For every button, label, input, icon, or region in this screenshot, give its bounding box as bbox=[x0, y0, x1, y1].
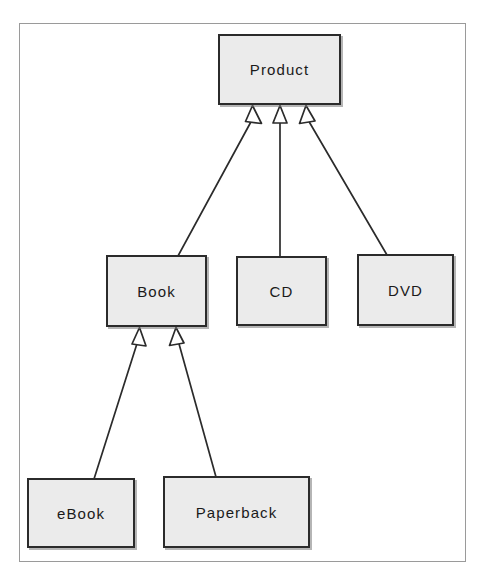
class-box-book[interactable]: Book bbox=[106, 255, 207, 327]
class-name-book: Book bbox=[137, 283, 176, 300]
class-name-cd: CD bbox=[270, 283, 294, 300]
class-name-ebook: eBook bbox=[57, 505, 105, 522]
class-name-product: Product bbox=[250, 61, 309, 78]
uml-class-diagram: Product Book CD DVD eBook Paperback bbox=[0, 0, 487, 584]
class-box-ebook[interactable]: eBook bbox=[27, 478, 135, 548]
class-name-dvd: DVD bbox=[388, 282, 423, 299]
class-name-paperback: Paperback bbox=[196, 504, 278, 521]
class-box-product[interactable]: Product bbox=[218, 34, 341, 105]
class-box-dvd[interactable]: DVD bbox=[357, 254, 454, 326]
class-box-cd[interactable]: CD bbox=[236, 256, 327, 326]
class-box-paperback[interactable]: Paperback bbox=[163, 476, 310, 548]
